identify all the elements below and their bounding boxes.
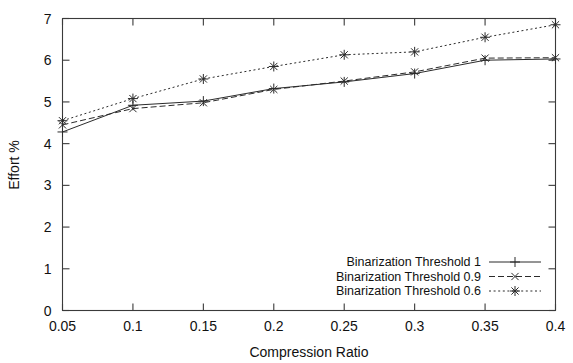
legend-label: Binarization Threshold 1: [346, 255, 481, 269]
effort-vs-compression-line-chart: 01234567 0.050.10.150.20.250.30.350.4 Bi…: [0, 0, 573, 363]
y-tick-label: 1: [44, 261, 52, 277]
chart-background: [0, 0, 573, 363]
legend-label: Binarization Threshold 0.9: [336, 270, 481, 284]
y-tick-label: 5: [44, 94, 52, 110]
x-tick-label: 0.35: [471, 318, 498, 334]
y-tick-label: 3: [44, 177, 52, 193]
x-tick-label: 0.15: [190, 318, 217, 334]
y-tick-label: 0: [44, 303, 52, 319]
x-axis-title: Compression Ratio: [249, 344, 368, 360]
chart-figure: 01234567 0.050.10.150.20.250.30.350.4 Bi…: [0, 0, 573, 363]
x-tick-label: 0.4: [546, 318, 566, 334]
x-tick-label: 0.1: [123, 318, 143, 334]
y-tick-label: 2: [44, 219, 52, 235]
y-tick-label: 6: [44, 52, 52, 68]
legend-label: Binarization Threshold 0.6: [336, 284, 481, 298]
x-tick-label: 0.25: [331, 318, 358, 334]
x-tick-label: 0.05: [49, 318, 76, 334]
x-tick-label: 0.2: [264, 318, 284, 334]
y-tick-label: 4: [44, 136, 52, 152]
x-tick-label: 0.3: [405, 318, 425, 334]
y-tick-label: 7: [44, 11, 52, 27]
y-axis-title: Effort %: [6, 140, 22, 190]
